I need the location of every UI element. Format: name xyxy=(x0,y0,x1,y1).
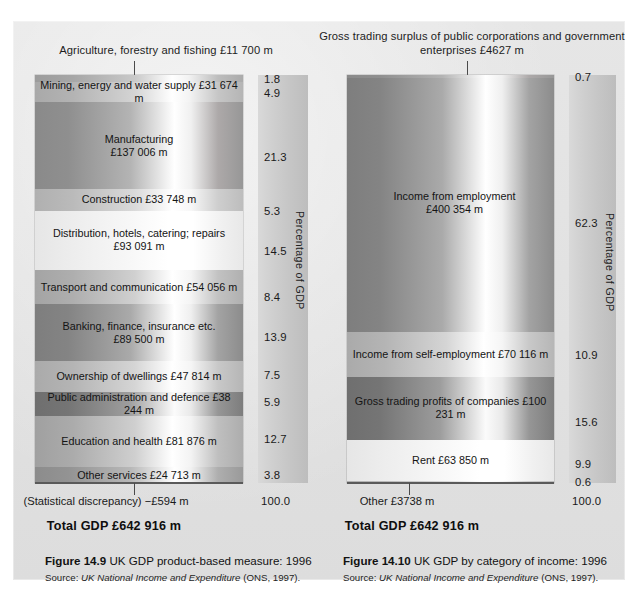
bar-segment[interactable]: Gross trading profits of companies £100 … xyxy=(347,377,554,441)
callout-left: Agriculture, forestry and fishing £11 70… xyxy=(13,43,319,57)
bar-segment[interactable]: Income from employment £400 354 m xyxy=(347,78,554,332)
bar-segment[interactable]: Income from self-employment £70 116 m xyxy=(347,332,554,377)
total-gdp-left: Total GDP £642 916 m xyxy=(0,519,267,533)
statistical-discrepancy-note: (Statistical discrepancy) −£594 m xyxy=(0,495,259,507)
bar-segment[interactable]: Manufacturing £137 006 m xyxy=(35,102,243,189)
percent-value: 8.4 xyxy=(264,291,280,303)
percent-value: 21.3 xyxy=(264,151,287,163)
source-prefix-right: Source: xyxy=(343,572,379,583)
figure-number-left: Figure 14.9 xyxy=(45,554,106,567)
axis-label-left: Percentage of GDP xyxy=(294,211,306,310)
percent-value: 5.3 xyxy=(264,205,280,217)
other-note: Other £3738 m xyxy=(244,495,550,507)
total-gdp-right: Total GDP £642 916 m xyxy=(259,519,565,533)
bar-baseline-right xyxy=(347,482,554,484)
figure-card: Agriculture, forestry and fishing £11 70… xyxy=(13,21,625,580)
percent-value: 14.5 xyxy=(264,245,287,257)
figure-source-left: Source: UK National Income and Expenditu… xyxy=(45,572,300,583)
bar-segment[interactable]: Mining, energy and water supply £31 674 … xyxy=(35,82,243,102)
panel-figure-14-10: Gross trading surplus of public corporat… xyxy=(319,21,625,580)
bar-segment[interactable]: Education and health £81 876 m xyxy=(35,416,243,468)
percent-value: 13.9 xyxy=(264,331,287,343)
axis-label-right: Percentage of GDP xyxy=(604,213,616,312)
bar-segment[interactable]: Distribution, hotels, catering; repairs … xyxy=(35,211,243,270)
bar-segment[interactable]: Rent £63 850 m xyxy=(347,440,554,480)
leader-line-right xyxy=(467,61,468,75)
percent-value: 10.9 xyxy=(575,349,598,361)
bar-segment[interactable]: Public administration and defence £38 24… xyxy=(35,392,243,416)
percent-value: 0.7 xyxy=(575,71,591,83)
figure-caption-right: UK GDP by category of income: 1996 xyxy=(414,554,607,567)
total-percent-right: 100.0 xyxy=(572,495,601,507)
bar-segment[interactable]: Ownership of dwellings £47 814 m xyxy=(35,361,243,392)
figure-source-right: Source: UK National Income and Expenditu… xyxy=(343,572,598,583)
source-title-left: UK National Income and Expenditure xyxy=(81,572,240,583)
callout-right: Gross trading surplus of public corporat… xyxy=(319,29,625,57)
bar-segment[interactable]: Banking, finance, insurance etc. £89 500… xyxy=(35,304,243,361)
percent-value: 7.5 xyxy=(264,369,280,381)
figure-caption-left: UK GDP product-based measure: 1996 xyxy=(109,554,311,567)
bar-segment[interactable]: Transport and communication £54 056 m xyxy=(35,270,243,304)
percent-value: 12.7 xyxy=(264,433,287,445)
source-suffix-left: (ONS, 1997). xyxy=(240,572,300,583)
bar-segment[interactable]: Other services £24 713 m xyxy=(35,467,243,483)
bar-segment[interactable]: Construction £33 748 m xyxy=(35,189,243,211)
percent-value: 62.3 xyxy=(575,217,598,229)
percent-value: 9.9 xyxy=(575,458,591,470)
source-prefix-left: Source: xyxy=(45,572,81,583)
percent-value: 4.9 xyxy=(264,87,280,99)
leader-line-left xyxy=(134,61,135,75)
percent-value: 15.6 xyxy=(575,416,598,428)
leader-line-left-bottom xyxy=(134,483,135,495)
percent-value: 3.8 xyxy=(264,469,280,481)
stacked-bar-left: Mining, energy and water supply £31 674 … xyxy=(35,75,243,483)
figure-title-left: Figure 14.9 UK GDP product-based measure… xyxy=(45,554,312,567)
percent-value: 0.6 xyxy=(575,476,591,488)
source-title-right: UK National Income and Expenditure xyxy=(379,572,538,583)
percent-value: 5.9 xyxy=(264,396,280,408)
figure-title-right: Figure 14.10 UK GDP by category of incom… xyxy=(343,554,607,567)
stacked-bar-right: Income from employment £400 354 m Income… xyxy=(347,75,554,483)
figure-number-right: Figure 14.10 xyxy=(343,554,411,567)
leader-line-right-bottom xyxy=(409,483,410,495)
figure-page: Agriculture, forestry and fishing £11 70… xyxy=(0,0,638,605)
percent-value: 1.8 xyxy=(264,73,280,85)
source-suffix-right: (ONS, 1997). xyxy=(538,572,598,583)
bar-baseline-left xyxy=(35,482,243,484)
